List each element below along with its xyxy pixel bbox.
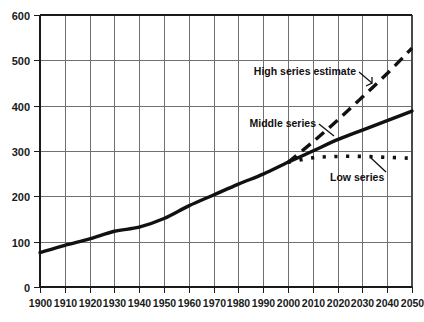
x-tick-label: 1980 xyxy=(227,297,251,309)
x-tick-label: 1960 xyxy=(178,297,202,309)
x-tick-label: 1920 xyxy=(79,297,103,309)
line-chart: 0100200300400500600 19001910192019301940… xyxy=(0,0,424,322)
x-tick-label: 1950 xyxy=(153,297,177,309)
x-tick-label: 1990 xyxy=(252,297,276,309)
x-tick-label: 1930 xyxy=(103,297,127,309)
annotation-low-series-label: Low series xyxy=(330,171,384,183)
y-tick-label: 400 xyxy=(12,101,30,113)
y-tick-label: 200 xyxy=(12,191,30,203)
y-tick-label: 500 xyxy=(12,55,30,67)
x-tick-label: 2020 xyxy=(327,297,351,309)
x-tick-label: 1910 xyxy=(54,297,78,309)
x-tick-label: 2030 xyxy=(351,297,375,309)
chart-background xyxy=(0,0,424,322)
x-tick-label: 2010 xyxy=(302,297,326,309)
y-tick-label: 100 xyxy=(12,237,30,249)
x-tick-label: 1940 xyxy=(128,297,152,309)
annotation-high-series-label: High series estimate xyxy=(254,65,356,77)
x-tick-label: 1900 xyxy=(29,297,53,309)
x-tick-label: 2050 xyxy=(401,297,424,309)
annotation-middle-series-label: Middle series xyxy=(249,117,316,129)
x-axis-tick-labels: 1900191019201930194019501960197019801990… xyxy=(29,297,424,309)
x-tick-label: 2040 xyxy=(376,297,400,309)
y-tick-label: 300 xyxy=(12,146,30,158)
y-tick-label: 600 xyxy=(12,10,30,22)
x-tick-label: 1970 xyxy=(203,297,227,309)
x-tick-label: 2000 xyxy=(277,297,301,309)
y-tick-label: 0 xyxy=(24,282,30,294)
chart-container: 0100200300400500600 19001910192019301940… xyxy=(0,0,424,322)
